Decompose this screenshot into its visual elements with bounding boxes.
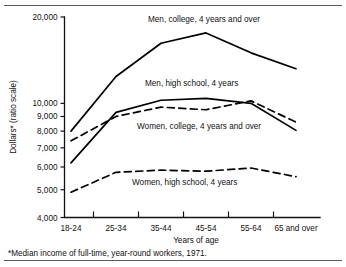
series-lines-group (71, 33, 296, 192)
figure-container: 20,00010,0009,0008,0007,0006,0005,0004,0… (0, 0, 346, 267)
x-tick-label: 35-44 (151, 224, 172, 233)
x-tick-label: 25-34 (106, 224, 127, 233)
y-tick-label: 10,000 (32, 99, 57, 108)
series-annotation-0: Men, college, 4 years and over (148, 15, 260, 24)
axis-lines (65, 17, 321, 218)
x-axis-ticks: 18-2425-3435-4445-5455-6465 and over (61, 212, 318, 233)
series-annotation-1: Men, high school, 4 years (145, 79, 238, 88)
y-tick-label: 6,000 (37, 163, 58, 172)
series-annotation-2: Women, college, 4 years and over (137, 122, 261, 131)
y-tick-label: 8,000 (37, 127, 58, 136)
series-annotation-3: Women, high school, 4 years (132, 178, 237, 187)
x-tick-label: 45-54 (196, 224, 217, 233)
footnote-text: *Median income of full-time, year-round … (8, 249, 207, 258)
x-tick-label: 65 and over (274, 224, 318, 233)
y-tick-label: 7,000 (37, 144, 58, 153)
y-tick-label: 20,000 (32, 13, 57, 22)
x-axis-title: Years of age (173, 236, 219, 245)
series-labels-group: Men, college, 4 years and overMen, high … (132, 15, 261, 187)
y-tick-label: 9,000 (37, 112, 58, 121)
y-axis-ticks: 20,00010,0009,0008,0007,0006,0005,0004,0… (32, 13, 64, 223)
series-line-2 (71, 101, 296, 141)
axes (65, 17, 321, 218)
y-tick-label: 4,000 (37, 214, 58, 223)
income-by-age-line-chart: 20,00010,0009,0008,0007,0006,0005,0004,0… (0, 0, 346, 267)
x-tick-label: 18-24 (61, 224, 82, 233)
x-tick-label: 55-64 (241, 224, 262, 233)
y-tick-label: 5,000 (37, 186, 58, 195)
y-axis-title: Dollars* (ratio scale) (9, 80, 18, 154)
